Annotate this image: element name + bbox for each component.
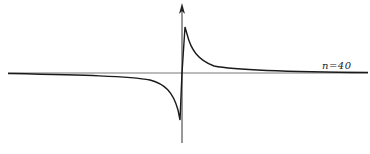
series-label: n=40	[322, 60, 352, 71]
curve-left	[8, 73, 182, 120]
chart	[0, 0, 370, 154]
